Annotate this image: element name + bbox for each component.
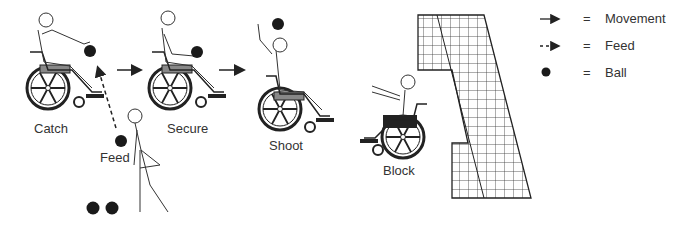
legend-movement-label: Movement — [605, 11, 666, 26]
ball-icon — [542, 68, 551, 77]
shoot-ball — [272, 18, 284, 30]
shoot-figure — [258, 24, 334, 132]
feed-ball — [115, 135, 127, 147]
block-label: Block — [383, 163, 415, 178]
feeder-figure — [128, 109, 168, 212]
legend-feed-label: Feed — [605, 38, 635, 53]
legend-eq-1: = — [583, 11, 591, 26]
block-figure — [360, 75, 427, 158]
legend-eq-3: = — [583, 65, 591, 80]
catch-label: Catch — [34, 121, 68, 136]
court-key — [418, 15, 531, 198]
catch-figure — [27, 13, 104, 109]
secure-figure — [149, 11, 226, 109]
shoot-label: Shoot — [269, 138, 303, 153]
legend-eq-2: = — [583, 38, 591, 53]
spare-ball-1 — [87, 202, 100, 215]
legend-ball-label: Ball — [605, 65, 627, 80]
feed-label: Feed — [100, 150, 130, 165]
secure-label: Secure — [167, 121, 208, 136]
diagram-canvas — [0, 0, 677, 233]
drill-diagram: Catch Secure Feed Shoot Block = Movement… — [0, 0, 677, 233]
spare-ball-2 — [106, 202, 119, 215]
